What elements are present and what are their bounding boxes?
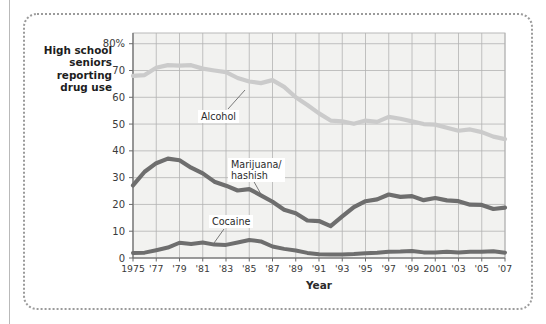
x-axis-tick-label: '83	[219, 263, 233, 274]
x-axis-tick-label: '91	[312, 263, 326, 274]
y-axis-tick-label: 0	[119, 253, 125, 264]
x-axis-tick-label: '03	[451, 263, 465, 274]
y-axis-tick-label: 30	[112, 172, 125, 183]
y-axis-tick-label: 20	[112, 199, 125, 210]
x-axis-tick-label: '89	[289, 263, 303, 274]
y-axis-tick-label: 70	[112, 65, 125, 76]
x-axis-tick-label: '77	[149, 263, 163, 274]
annotation-cocaine: Cocaine	[209, 215, 253, 228]
x-axis-tick-label: '95	[358, 263, 372, 274]
y-axis-tick-label: 80%	[103, 38, 125, 49]
x-axis-tick-label: '85	[242, 263, 256, 274]
annotation-marijuana: Marijuana/ hashish	[228, 158, 285, 182]
y-axis-tick-label: 40	[112, 145, 125, 156]
y-axis-tick-label: 10	[112, 226, 125, 237]
y-axis-tick-label: 50	[112, 119, 125, 130]
x-axis-tick-label: 1975	[121, 263, 145, 274]
x-axis-tick-label: '07	[498, 263, 512, 274]
annotation-alcohol: Alcohol	[198, 110, 239, 123]
x-axis-tick-label: '05	[475, 263, 489, 274]
x-axis-tick-label: 2001	[423, 263, 447, 274]
x-axis-tick-label: '79	[172, 263, 186, 274]
x-axis-tick-label: '93	[335, 263, 349, 274]
x-axis-tick-label: '87	[265, 263, 279, 274]
x-axis-tick-label: '97	[382, 263, 396, 274]
y-axis-tick-label: 60	[112, 92, 125, 103]
x-axis-tick-label: '81	[196, 263, 210, 274]
x-axis-tick-label: '99	[405, 263, 419, 274]
x-axis-title: Year	[305, 279, 333, 291]
chart-figure: High school seniors reporting drug use 0…	[0, 0, 546, 324]
